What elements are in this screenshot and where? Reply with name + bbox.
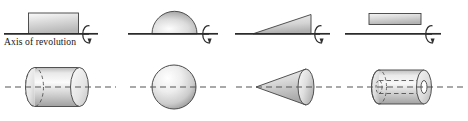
axis-of-revolution-label: Axis of revolution (4, 36, 76, 47)
offset-rectangle-region (369, 14, 421, 25)
rectangle-region (29, 13, 79, 34)
solids-of-revolution-figure: Axis of revolution (0, 0, 468, 121)
